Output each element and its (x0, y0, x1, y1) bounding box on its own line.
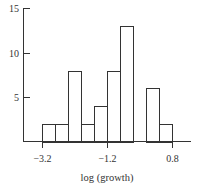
histogram-bar (95, 107, 108, 143)
y-tick-label: 10 (9, 48, 19, 59)
x-axis-ticks: −3.2−1.20.8 (33, 142, 178, 165)
histogram-bar (160, 125, 173, 143)
x-tick-label: −3.2 (33, 153, 51, 164)
histogram-bar (69, 72, 82, 143)
histogram-bar (43, 125, 56, 143)
histogram-bar (121, 27, 134, 143)
histogram-bar (147, 89, 160, 143)
histogram-bars (43, 27, 173, 143)
y-tick-label: 15 (9, 3, 19, 14)
histogram-bar (108, 72, 121, 143)
x-tick-label: −1.2 (98, 153, 116, 164)
y-tick-label: 5 (14, 92, 19, 103)
x-tick-label: 0.8 (166, 153, 179, 164)
histogram-bar (56, 125, 69, 143)
histogram-chart: 51015 −3.2−1.20.8 log (growth) (0, 0, 199, 187)
x-axis-title: log (growth) (81, 172, 134, 184)
histogram-bar (82, 125, 95, 143)
y-axis-ticks: 51015 (9, 3, 30, 103)
